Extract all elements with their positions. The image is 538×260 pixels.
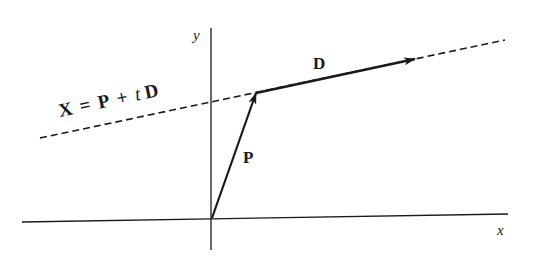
- vector-p-label: P: [243, 148, 253, 167]
- eq-p: P: [96, 90, 112, 113]
- eq-x: X: [56, 97, 74, 120]
- eq-equals: =: [77, 94, 92, 117]
- eq-d: D: [143, 79, 161, 102]
- vector-d-label: D: [313, 54, 325, 73]
- x-axis: [22, 214, 508, 222]
- line-equation: X = P + t D: [56, 79, 160, 121]
- y-axis-label: y: [191, 27, 200, 43]
- parametric-line-diagram: y x D P X = P + t D: [0, 0, 538, 260]
- eq-plus: +: [115, 86, 130, 109]
- x-axis-label: x: [496, 222, 504, 238]
- vector-d: [256, 59, 415, 93]
- svg-text:X = P +: X = P + t D: [56, 79, 160, 121]
- eq-t: t: [133, 83, 143, 105]
